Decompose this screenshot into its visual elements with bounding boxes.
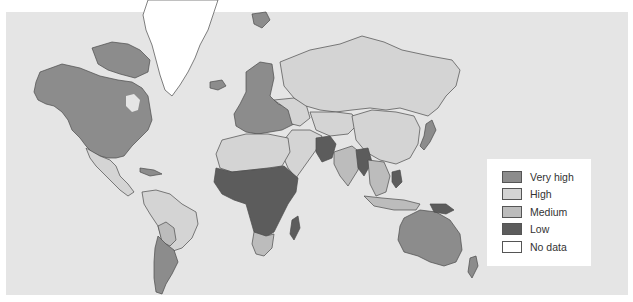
legend-label: Low	[530, 223, 549, 235]
legend-swatch-low	[502, 223, 522, 235]
region-north-africa	[216, 134, 290, 172]
region-caribbean	[140, 168, 162, 176]
legend-label: Very high	[530, 171, 574, 183]
legend-item-very-high: Very high	[502, 168, 591, 186]
region-arctic-islands	[92, 42, 150, 78]
region-sub-saharan-africa	[214, 166, 298, 238]
legend-swatch-very-high	[502, 171, 522, 183]
region-southeast-asia	[368, 160, 390, 196]
legend-swatch-medium	[502, 206, 522, 218]
legend-label: High	[530, 188, 552, 200]
region-southern-africa	[252, 232, 274, 256]
region-indonesia	[364, 196, 420, 210]
region-russia	[280, 36, 460, 116]
region-japan	[420, 120, 436, 150]
region-pakistan	[316, 136, 336, 162]
region-central-asia	[310, 112, 358, 136]
region-svalbard	[252, 12, 270, 28]
legend-swatch-no-data	[502, 241, 522, 253]
region-madagascar	[290, 216, 300, 240]
map-legend: Very high High Medium Low No data	[487, 159, 591, 266]
legend-label: Medium	[530, 206, 567, 218]
legend-item-no-data: No data	[502, 238, 591, 256]
region-iceland	[210, 80, 226, 90]
legend-label: No data	[530, 241, 567, 253]
region-greenland	[143, 0, 218, 96]
legend-item-high: High	[502, 186, 591, 204]
region-australia	[398, 210, 462, 266]
legend-item-low: Low	[502, 221, 591, 239]
region-new-zealand	[468, 256, 478, 278]
legend-swatch-high	[502, 188, 522, 200]
region-philippines	[392, 170, 402, 188]
legend-item-medium: Medium	[502, 203, 591, 221]
